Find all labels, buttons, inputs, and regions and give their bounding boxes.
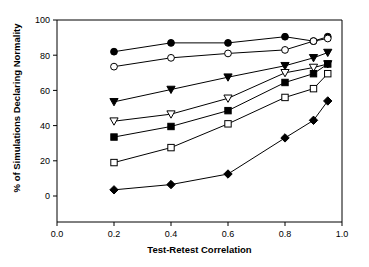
marker-filled-diamond bbox=[110, 186, 118, 194]
x-tick-label: 0.4 bbox=[165, 229, 178, 239]
x-axis-title: Test-Retest Correlation bbox=[147, 244, 252, 255]
marker-filled-circle bbox=[168, 39, 175, 46]
marker-filled-circle bbox=[111, 48, 118, 55]
marker-open-circle bbox=[324, 35, 331, 42]
x-tick-label: 0.8 bbox=[279, 229, 292, 239]
plot-frame bbox=[57, 20, 342, 222]
series-line-series-1 bbox=[114, 37, 328, 52]
marker-open-circle bbox=[225, 50, 232, 57]
marker-filled-diamond bbox=[224, 170, 232, 178]
marker-filled-square bbox=[282, 79, 288, 85]
y-tick-label: 80 bbox=[40, 51, 50, 61]
marker-open-circle bbox=[168, 54, 175, 61]
marker-open-circle bbox=[111, 63, 118, 70]
marker-filled-square bbox=[310, 70, 316, 76]
marker-filled-square bbox=[168, 123, 174, 129]
x-tick-label: 0.2 bbox=[108, 229, 121, 239]
marker-filled-circle bbox=[282, 33, 289, 40]
x-tick-label: 1.0 bbox=[336, 229, 349, 239]
x-tick-label: 0.6 bbox=[222, 229, 235, 239]
marker-filled-triangle-down bbox=[110, 99, 118, 106]
marker-open-square bbox=[310, 85, 316, 91]
marker-filled-square bbox=[225, 107, 231, 113]
marker-open-triangle-down bbox=[281, 70, 289, 77]
marker-open-circle bbox=[310, 38, 317, 45]
y-tick-label: 20 bbox=[40, 156, 50, 166]
series-line-series-6 bbox=[114, 74, 328, 163]
marker-open-circle bbox=[282, 47, 289, 54]
marker-filled-square bbox=[325, 61, 331, 67]
y-tick-label: 0 bbox=[45, 191, 50, 201]
marker-filled-triangle-down bbox=[324, 49, 332, 56]
marker-filled-diamond bbox=[281, 134, 289, 142]
marker-open-square bbox=[225, 121, 231, 127]
y-tick-label: 100 bbox=[35, 15, 50, 25]
marker-filled-circle bbox=[225, 39, 232, 46]
marker-open-square bbox=[111, 159, 117, 165]
series-line-series-7 bbox=[114, 101, 328, 190]
marker-filled-diamond bbox=[167, 180, 175, 188]
x-tick-label: 0.0 bbox=[51, 229, 64, 239]
y-axis-title: % of Simulations Declaring Normality bbox=[11, 23, 22, 193]
marker-open-square bbox=[168, 144, 174, 150]
marker-open-square bbox=[325, 70, 331, 76]
marker-filled-diamond bbox=[324, 97, 332, 105]
marker-open-triangle-down bbox=[110, 118, 118, 125]
marker-filled-diamond bbox=[309, 116, 317, 124]
y-tick-label: 40 bbox=[40, 121, 50, 131]
y-tick-label: 60 bbox=[40, 86, 50, 96]
figure-container: 0204060801000.00.20.40.60.81.0Test-Retes… bbox=[0, 0, 369, 267]
marker-open-square bbox=[282, 94, 288, 100]
marker-filled-square bbox=[111, 134, 117, 140]
line-chart: 0204060801000.00.20.40.60.81.0Test-Retes… bbox=[0, 0, 369, 267]
